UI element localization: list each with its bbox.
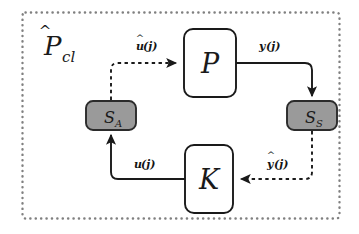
block-plant[interactable]: P — [184, 29, 236, 97]
block-sensor-subscript: S — [316, 118, 323, 129]
edge-label-uhat: ^ u (j) — [136, 32, 158, 53]
edge-u-path — [111, 135, 185, 179]
edge-label-y-arg: (j) — [266, 40, 280, 53]
block-controller-label: K — [198, 164, 221, 195]
edge-label-u: u (j) — [134, 158, 155, 171]
block-actuator-subscript: A — [114, 118, 122, 129]
block-sensor-label: S — [305, 108, 316, 127]
edge-yhat-path — [241, 131, 312, 179]
edge-label-yhat-arg: (j) — [274, 158, 288, 171]
edge-label-uhat-arg: (j) — [143, 40, 157, 53]
edge-label-u-arg: (j) — [141, 158, 155, 171]
block-plant-label: P — [200, 48, 220, 79]
edge-label-y: y (j) — [258, 40, 280, 53]
block-actuator-label: S — [104, 108, 115, 127]
closed-loop-system-diagram: ^ P cl P K S A — [0, 0, 359, 234]
diagram-canvas: ^ P cl P K S A — [0, 0, 359, 234]
block-sensor[interactable]: S S — [287, 101, 337, 130]
edge-label-yhat: ^ y (j) — [266, 149, 288, 171]
block-controller[interactable]: K — [185, 145, 233, 213]
edge-uhat-path — [111, 63, 176, 100]
outer-container-label: ^ P cl — [39, 22, 76, 66]
block-actuator[interactable]: S A — [86, 101, 136, 130]
outer-label-subscript: cl — [62, 48, 75, 66]
outer-label-script: P — [43, 31, 62, 61]
edge-y-path — [236, 63, 312, 96]
